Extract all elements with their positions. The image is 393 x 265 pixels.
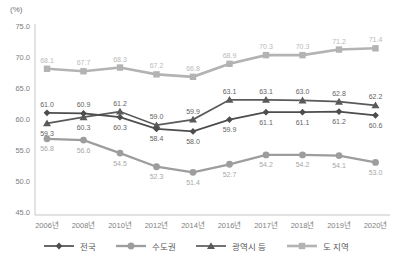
data-point-label: 54.2 — [259, 161, 273, 168]
circle-marker — [128, 243, 135, 250]
square-marker — [336, 46, 342, 52]
circle-marker — [263, 152, 270, 159]
data-point-label: 63.1 — [259, 88, 273, 95]
x-tick-label: 2014년 — [181, 220, 205, 230]
y-tick-label: 65.0 — [15, 84, 30, 93]
data-point-label: 63.1 — [223, 88, 237, 95]
chart-legend: 전국수도권광역시 등도 지역 — [0, 240, 393, 252]
legend-item-1: 전국 — [44, 240, 96, 252]
x-tick-label: 2010년 — [108, 220, 132, 230]
x-tick-label: 2012년 — [145, 220, 169, 230]
square-marker — [299, 52, 305, 58]
data-point-label: 68.3 — [113, 56, 127, 63]
y-tick-label: 75.0 — [15, 22, 30, 31]
data-point-label: 56.8 — [40, 145, 54, 152]
x-tick-label: 2008년 — [72, 220, 96, 230]
data-point-label: 52.3 — [150, 173, 164, 180]
legend-label: 수도권 — [152, 240, 176, 252]
data-point-label: 71.4 — [369, 36, 383, 43]
legend-marker — [196, 241, 226, 251]
chart-plot-area: (%) 75.070.065.060.055.050.045.0 68.167.… — [0, 0, 393, 238]
square-marker — [44, 66, 50, 72]
data-point-label: 68.1 — [40, 57, 54, 64]
data-point-label: 60.9 — [77, 101, 91, 108]
square-marker — [298, 243, 304, 249]
diamond-marker — [56, 243, 63, 250]
y-axis-tick-labels: 75.070.065.060.055.050.045.0 — [15, 22, 30, 217]
circle-marker — [80, 137, 87, 144]
series-2: 56.856.654.552.351.452.754.254.254.153.0 — [40, 135, 382, 185]
diamond-marker — [44, 109, 51, 116]
data-series: 68.167.768.367.266.868.970.370.371.271.4… — [40, 36, 382, 186]
data-point-label: 59.9 — [186, 108, 200, 115]
diamond-marker — [117, 114, 124, 121]
diamond-marker — [263, 109, 270, 116]
data-point-label: 62.8 — [332, 90, 346, 97]
data-point-label: 61.2 — [332, 118, 346, 125]
data-point-label: 58.4 — [150, 135, 164, 142]
diamond-marker — [226, 116, 233, 123]
y-tick-label: 70.0 — [15, 53, 30, 62]
x-tick-label: 2016년 — [218, 220, 242, 230]
diamond-marker — [190, 128, 197, 135]
legend-item-2: 수도권 — [116, 240, 176, 252]
data-point-label: 67.2 — [150, 62, 164, 69]
diamond-marker — [80, 110, 87, 117]
circle-marker — [226, 161, 233, 168]
data-point-label: 61.1 — [259, 119, 273, 126]
data-point-label: 66.8 — [186, 65, 200, 72]
data-point-label: 51.4 — [186, 179, 200, 186]
series-line — [47, 48, 376, 77]
legend-marker — [116, 241, 146, 251]
data-point-label: 60.3 — [77, 124, 91, 131]
data-point-label: 70.3 — [259, 43, 273, 50]
x-tick-label: 2020년 — [364, 220, 388, 230]
diamond-marker — [336, 108, 343, 115]
data-point-label: 60.6 — [369, 122, 383, 129]
x-axis-tick-labels: 2006년2008년2010년2012년2014년2016년2017년2018년… — [35, 220, 387, 230]
series-line — [47, 139, 376, 172]
data-point-label: 53.0 — [369, 169, 383, 176]
y-axis-unit-label: (%) — [10, 5, 23, 14]
series-1: 61.060.960.358.458.059.961.161.161.260.6 — [40, 101, 382, 145]
legend-item-4: 도 지역 — [287, 240, 349, 252]
square-marker — [226, 61, 232, 67]
data-point-label: 62.2 — [369, 93, 383, 100]
data-point-label: 61.0 — [40, 101, 54, 108]
y-tick-label: 60.0 — [15, 115, 30, 124]
legend-marker — [287, 241, 317, 251]
data-point-label: 61.1 — [296, 119, 310, 126]
home-ownership-rate-line-chart: (%) 75.070.065.060.055.050.045.0 68.167.… — [0, 0, 393, 265]
x-tick-label: 2018년 — [291, 220, 315, 230]
circle-marker — [299, 152, 306, 159]
data-point-label: 54.2 — [296, 161, 310, 168]
square-marker — [153, 71, 159, 77]
data-point-label: 60.3 — [113, 124, 127, 131]
square-marker — [263, 52, 269, 58]
x-tick-label: 2017년 — [254, 220, 278, 230]
circle-marker — [372, 159, 379, 166]
data-point-label: 67.7 — [77, 59, 91, 66]
data-point-label: 58.0 — [186, 138, 200, 145]
data-point-label: 59.9 — [223, 126, 237, 133]
series-line — [47, 112, 376, 132]
circle-marker — [190, 169, 197, 176]
data-point-label: 70.3 — [296, 43, 310, 50]
data-point-label: 63.0 — [296, 88, 310, 95]
circle-marker — [153, 163, 160, 170]
data-point-label: 56.6 — [77, 147, 91, 154]
legend-item-3: 광역시 등 — [196, 240, 266, 252]
x-tick-label: 2006년 — [35, 220, 59, 230]
square-marker — [80, 68, 86, 74]
square-marker — [372, 45, 378, 51]
circle-marker — [117, 150, 124, 157]
data-point-label: 52.7 — [223, 171, 237, 178]
data-point-label: 71.2 — [332, 38, 346, 45]
data-point-label: 61.2 — [113, 100, 127, 107]
data-point-label: 59.0 — [150, 113, 164, 120]
legend-label: 전국 — [80, 240, 96, 252]
y-tick-label: 50.0 — [15, 177, 30, 186]
data-point-label: 68.9 — [223, 52, 237, 59]
legend-label: 광역시 등 — [232, 240, 266, 252]
y-tick-label: 55.0 — [15, 146, 30, 155]
